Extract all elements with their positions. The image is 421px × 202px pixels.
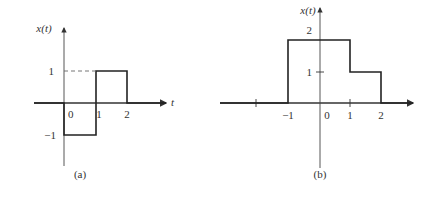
a-ytick-1: 1 bbox=[49, 65, 55, 77]
a-tick-2: 2 bbox=[124, 108, 130, 120]
b-caption: (b) bbox=[314, 168, 327, 181]
figure-canvas: x(t) t 0 1 2 1 −1 (a) x(t) 2 1 −1 0 1 2 … bbox=[0, 0, 421, 202]
b-ytick-1-label: 1 bbox=[307, 66, 313, 78]
a-ytick-neg1: −1 bbox=[44, 129, 56, 141]
b-xtick-2-label: 2 bbox=[378, 109, 384, 121]
b-ytick-2-label: 2 bbox=[307, 24, 313, 36]
b-ylabel: x(t) bbox=[299, 4, 316, 17]
b-signal bbox=[220, 40, 413, 103]
b-xtick-0-label: 0 bbox=[324, 109, 330, 121]
b-xtick-1-label: 1 bbox=[347, 109, 353, 121]
a-tick-0: 0 bbox=[68, 108, 74, 120]
a-caption: (a) bbox=[74, 168, 87, 181]
a-ylabel: x(t) bbox=[35, 22, 52, 35]
chart-b: x(t) 2 1 −1 0 1 2 (b) bbox=[220, 4, 413, 181]
chart-a: x(t) t 0 1 2 1 −1 (a) bbox=[34, 22, 175, 181]
b-xtick-m1-label: −1 bbox=[282, 109, 294, 121]
a-tick-1: 1 bbox=[96, 108, 102, 120]
a-tlabel: t bbox=[171, 96, 175, 108]
